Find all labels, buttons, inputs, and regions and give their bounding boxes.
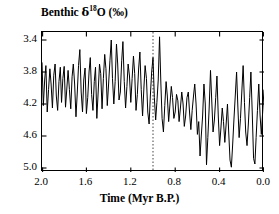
y-axis-tick-label: 3.4 xyxy=(5,32,37,44)
data-plot-svg xyxy=(42,32,264,172)
chart-title-prefix: Benthic xyxy=(41,6,82,18)
benthic-oxygen-isotope-figure: Benthic δ18O (‰) 5.04.64.23.83.4 2.01.61… xyxy=(0,0,279,214)
x-axis-tick-label: 0.0 xyxy=(243,175,279,187)
isotope-superscript: 18 xyxy=(89,4,97,13)
chart-title: Benthic δ18O (‰) xyxy=(41,4,128,19)
y-axis-tick-label: 3.8 xyxy=(5,64,37,76)
x-axis-tick-label: 0.8 xyxy=(154,175,194,187)
y-axis-tick-label: 5.0 xyxy=(5,160,37,172)
element-symbol: O xyxy=(97,6,106,18)
x-axis-tick-label: 1.2 xyxy=(110,175,150,187)
x-axis-tick-label: 1.6 xyxy=(65,175,105,187)
units-label: (‰) xyxy=(106,6,128,18)
x-axis-tick-label: 0.4 xyxy=(199,175,239,187)
plot-area xyxy=(41,31,263,171)
y-axis-tick-label: 4.2 xyxy=(5,96,37,108)
x-axis-tick-label: 2.0 xyxy=(21,175,61,187)
x-axis-title: Time (Myr B.P.) xyxy=(0,192,279,204)
y-axis-tick-label: 4.6 xyxy=(5,128,37,140)
